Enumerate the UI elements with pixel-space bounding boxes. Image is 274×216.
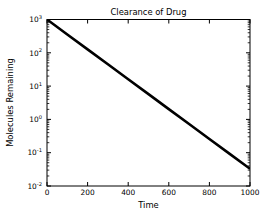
x-axis-label: Time: [137, 200, 159, 210]
y-tick-exp-2: 2: [39, 47, 42, 53]
y-tick-exp-1: 1: [39, 81, 42, 87]
y-tick-exp-m2: -2: [37, 181, 42, 187]
y-tick-exp-m1: -1: [37, 147, 42, 153]
x-tick-label-200: 200: [81, 188, 95, 197]
y-tick-exp-0: 0: [39, 114, 42, 120]
x-tick-label-400: 400: [121, 188, 135, 197]
x-tick-label-1000: 1000: [241, 188, 260, 197]
chart-title: Clearance of Drug: [110, 7, 186, 17]
x-tick-label-600: 600: [162, 188, 176, 197]
clearance-of-drug-chart: Clearance of Drug 0 200 400 600 800 1000: [0, 0, 274, 216]
y-axis-label: Molecules Remaining: [5, 58, 15, 147]
plot-area-background: [47, 20, 250, 187]
x-tick-label-800: 800: [202, 188, 216, 197]
chart-figure: Clearance of Drug 0 200 400 600 800 1000: [0, 0, 274, 216]
x-tick-label-0: 0: [45, 188, 50, 197]
y-tick-exp-3: 3: [39, 14, 42, 20]
